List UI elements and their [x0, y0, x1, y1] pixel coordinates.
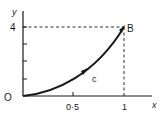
- x-tick-label-0-5: 0·5: [66, 102, 79, 112]
- origin-label: O: [4, 92, 12, 103]
- x-axis-label: x: [151, 100, 157, 110]
- point-b-label: B: [127, 23, 134, 34]
- y-tick-label-4: 4: [10, 22, 16, 33]
- curve-c-label: c: [92, 74, 97, 84]
- curve-diagram: y x O 4 0·5 1 B c: [0, 0, 163, 113]
- curve-c: [23, 27, 124, 96]
- x-tick-label-1: 1: [122, 102, 127, 112]
- y-axis-label: y: [11, 7, 17, 17]
